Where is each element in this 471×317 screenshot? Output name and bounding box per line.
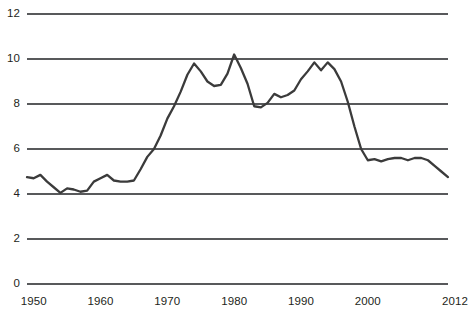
y-axis-tick-label: 2	[0, 233, 20, 245]
chart-container: 024681012 1950196019701980199020002012	[0, 0, 471, 317]
y-axis-tick-label: 12	[0, 8, 20, 20]
data-line-series-1	[27, 55, 448, 193]
gridlines-group	[27, 14, 448, 284]
y-axis-tick-label: 6	[0, 143, 20, 155]
x-axis-tick-label: 1950	[14, 296, 54, 308]
x-axis-tick-label: 1970	[147, 296, 187, 308]
x-axis-tick-label: 1980	[214, 296, 254, 308]
data-series-group	[27, 55, 448, 193]
y-axis-tick-label: 10	[0, 53, 20, 65]
y-axis-tick-label: 4	[0, 188, 20, 200]
y-axis-tick-label: 8	[0, 98, 20, 110]
x-axis-tick-label: 1960	[81, 296, 121, 308]
y-axis-tick-label: 0	[0, 278, 20, 290]
x-axis-tick-label: 1990	[281, 296, 321, 308]
line-chart-plot	[0, 0, 471, 317]
x-axis-tick-label: 2000	[348, 296, 388, 308]
x-axis-tick-label: 2012	[435, 296, 471, 308]
